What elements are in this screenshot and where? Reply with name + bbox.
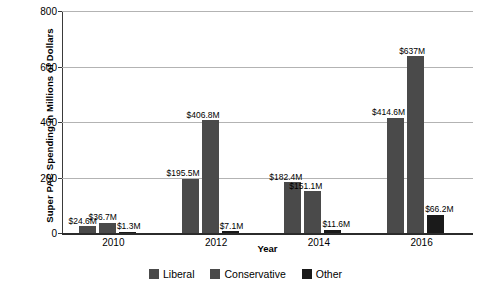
- bar-2010-liberal[interactable]: $24.6M: [79, 226, 96, 233]
- plot-area: 800 600 400 200 0 $24.6M$36.7M$1.3M$195.…: [62, 11, 473, 233]
- x-axis-title: Year: [62, 243, 473, 254]
- y-tick-label-0: 0: [51, 228, 57, 239]
- y-tick-label-400: 400: [40, 117, 57, 128]
- legend-item-conservative[interactable]: Conservative: [210, 268, 285, 280]
- legend-item-liberal[interactable]: Liberal: [149, 268, 195, 280]
- bar-value-label: $1.3M: [117, 222, 141, 231]
- bar-chart: Super PAC Spending in Millions of Dollar…: [0, 0, 491, 297]
- bar-group-2014: $182.4M$151.1M$11.6M: [268, 11, 371, 233]
- bar-group-2012: $195.5M$406.8M$7.1M: [165, 11, 268, 233]
- bar-2012-liberal[interactable]: $195.5M: [182, 179, 199, 233]
- bar-2010-conservative[interactable]: $36.7M: [99, 223, 116, 233]
- legend-swatch-icon: [302, 269, 312, 279]
- bar-value-label: $414.6M: [372, 108, 405, 117]
- y-tick-mark-0: [58, 233, 62, 234]
- bar-2016-conservative[interactable]: $637M: [407, 56, 424, 233]
- y-tick-label-600: 600: [40, 61, 57, 72]
- bar-2014-conservative[interactable]: $151.1M: [304, 191, 321, 233]
- bar-group-2010: $24.6M$36.7M$1.3M: [62, 11, 165, 233]
- bar-value-label: $406.8M: [187, 111, 220, 120]
- chart-legend: LiberalConservativeOther: [0, 268, 491, 280]
- bar-2016-liberal[interactable]: $414.6M: [387, 118, 404, 233]
- legend-label: Conservative: [224, 268, 285, 280]
- bar-value-label: $195.5M: [167, 169, 200, 178]
- legend-swatch-icon: [149, 269, 159, 279]
- bar-value-label: $7.1M: [220, 222, 244, 231]
- bar-2010-other[interactable]: $1.3M: [119, 232, 136, 234]
- legend-swatch-icon: [210, 269, 220, 279]
- legend-item-other[interactable]: Other: [302, 268, 342, 280]
- bar-2016-other[interactable]: $66.2M: [427, 215, 444, 233]
- bar-2012-conservative[interactable]: $406.8M: [202, 120, 219, 233]
- bar-group-2016: $414.6M$637M$66.2M: [370, 11, 473, 233]
- bar-2014-other[interactable]: $11.6M: [324, 230, 341, 233]
- legend-label: Liberal: [163, 268, 195, 280]
- bar-value-label: $36.7M: [89, 213, 117, 222]
- bar-value-label: $637M: [399, 47, 425, 56]
- bar-value-label: $11.6M: [322, 220, 350, 229]
- gridline-0: 0: [62, 233, 473, 234]
- legend-label: Other: [316, 268, 342, 280]
- y-tick-label-200: 200: [40, 172, 57, 183]
- y-tick-label-800: 800: [40, 6, 57, 17]
- bar-2012-other[interactable]: $7.1M: [222, 231, 239, 233]
- bar-value-label: $66.2M: [425, 205, 453, 214]
- bar-value-label: $151.1M: [289, 182, 322, 191]
